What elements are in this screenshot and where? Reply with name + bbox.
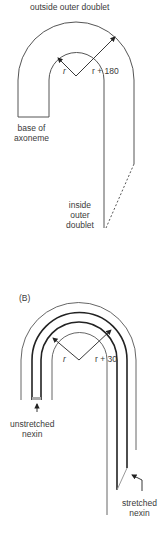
- unstretched-nexin: [32, 397, 41, 400]
- unstretched-line1: unstretched: [10, 419, 54, 429]
- inside-label-line2: outer: [66, 210, 94, 220]
- base-of-axoneme-label: base of axoneme: [14, 123, 49, 143]
- stretched-line2: nexin: [122, 508, 157, 518]
- radius-r30-label: r + 30: [95, 354, 117, 364]
- stretched-nexin: [117, 468, 127, 490]
- unstretched-nexin-label: unstretched nexin: [10, 419, 54, 439]
- radius-r-label-a: r: [63, 66, 66, 76]
- outside-outer-doublet-label: outside outer doublet: [30, 2, 109, 12]
- stretched-nexin-label: stretched nexin: [122, 498, 157, 518]
- base-label-line1: base of: [14, 123, 49, 133]
- panel-b-doublets: [21, 303, 136, 515]
- inside-label-line3: doublet: [66, 220, 94, 230]
- inside-outer-doublet-label: inside outer doublet: [66, 200, 94, 230]
- base-label-line2: axoneme: [14, 133, 49, 143]
- axoneme-bending-diagram: [0, 0, 167, 537]
- radius-r180-label: r + 180: [92, 66, 119, 76]
- stretched-line1: stretched: [122, 498, 157, 508]
- inside-label-line1: inside: [66, 200, 94, 210]
- unstretched-line2: nexin: [10, 429, 54, 439]
- radius-r-label-b: r: [63, 354, 66, 364]
- panel-b-label: (B): [19, 293, 30, 303]
